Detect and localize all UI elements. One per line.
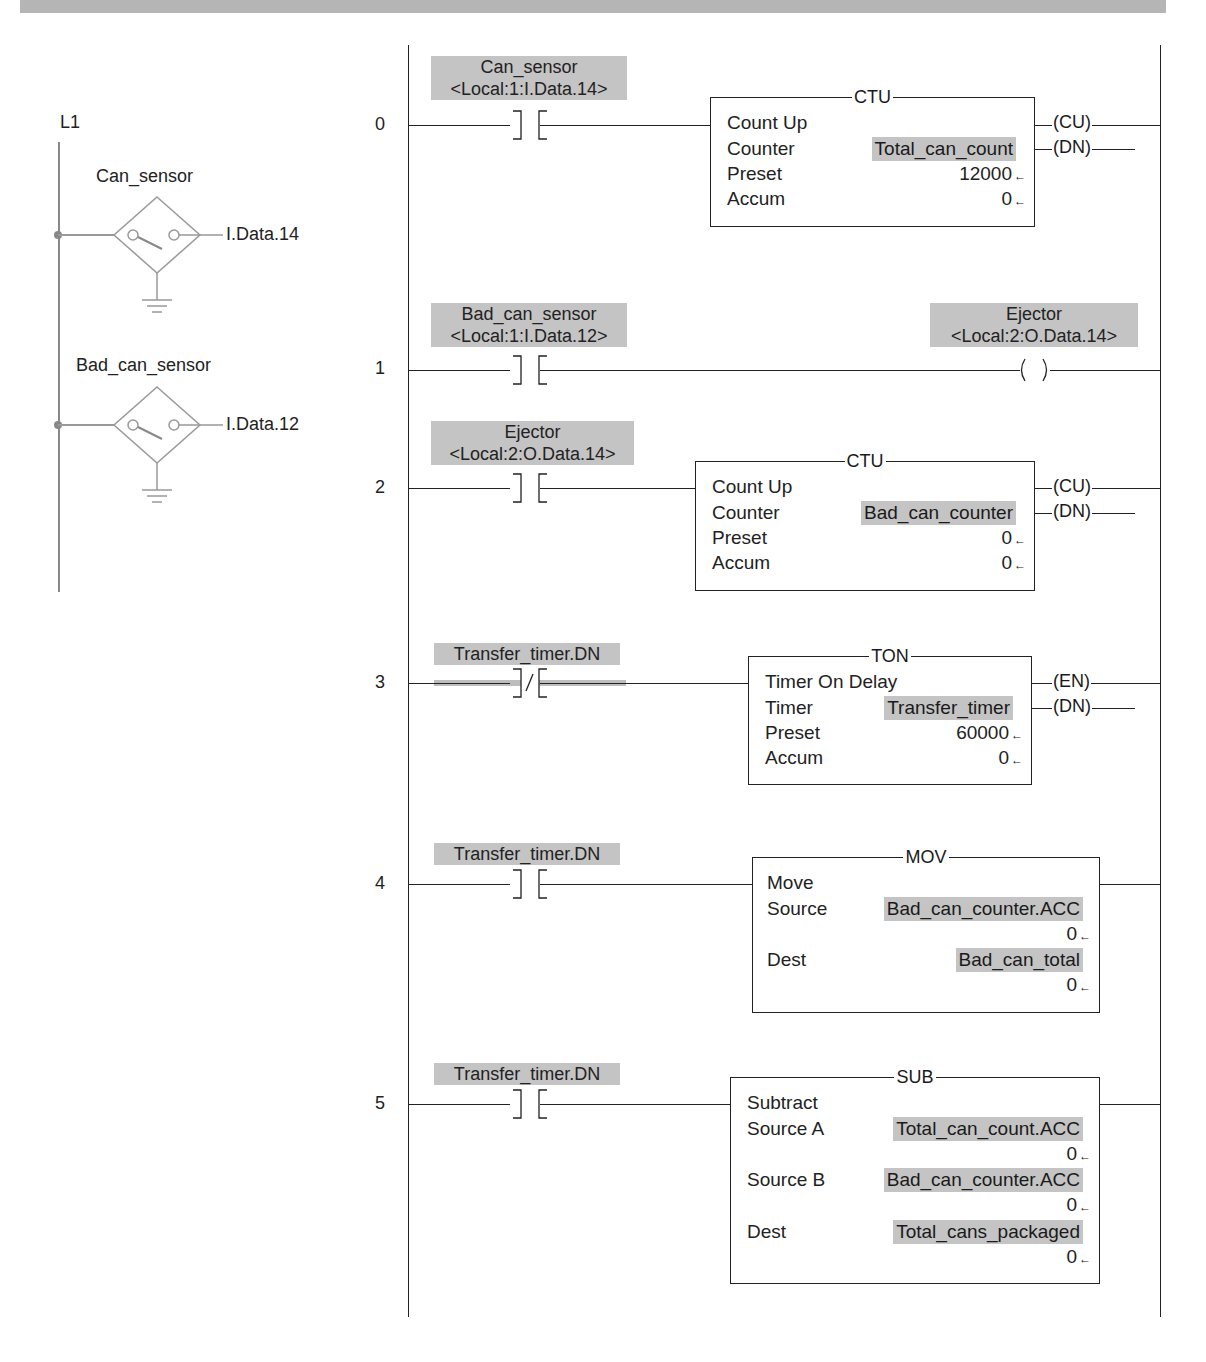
tag-alias: <Local:1:I.Data.12> xyxy=(433,325,625,347)
tag-name: Can_sensor xyxy=(433,56,625,78)
dest-tag[interactable]: Total_cans_packaged xyxy=(893,1220,1083,1244)
param-label: Source A xyxy=(747,1118,824,1140)
proximity-sensor-icon xyxy=(50,190,230,320)
tag-alias: <Local:1:I.Data.14> xyxy=(433,78,625,100)
tag-alias: <Local:2:O.Data.14> xyxy=(932,325,1136,347)
param-label: Preset xyxy=(712,527,767,549)
instruction-mnemonic: MOV xyxy=(903,847,948,867)
right-power-rail xyxy=(1160,45,1161,1317)
source-b-value: 0 xyxy=(1066,1194,1077,1215)
accum-value[interactable]: 0 xyxy=(1001,552,1012,573)
rung-number: 4 xyxy=(370,873,390,894)
dn-status-bit: (DN) xyxy=(1052,137,1092,158)
contact-tag[interactable]: Bad_can_sensor <Local:1:I.Data.12> xyxy=(431,303,627,347)
tag-name: Bad_can_sensor xyxy=(433,303,625,325)
mov-instruction-block[interactable]: MOV Move Source Bad_can_counter.ACC 0← D… xyxy=(752,857,1100,1013)
instruction-mnemonic: CTU xyxy=(852,87,893,107)
dest-value: 0 xyxy=(1066,974,1077,995)
param-label: Source xyxy=(767,898,827,920)
ctu-instruction-block[interactable]: CTU Count Up Counter Bad_can_counter Pre… xyxy=(695,461,1035,591)
arrow-left-icon: ← xyxy=(1011,728,1023,742)
preset-value[interactable]: 60000 xyxy=(956,722,1009,743)
param-label: Timer xyxy=(765,697,813,719)
tag-name: Ejector xyxy=(433,421,632,443)
contact-tag[interactable]: Transfer_timer.DN xyxy=(434,843,620,865)
instruction-mnemonic: SUB xyxy=(894,1067,935,1087)
instruction-mnemonic: CTU xyxy=(845,451,886,471)
ctu-instruction-block[interactable]: CTU Count Up Counter Total_can_count Pre… xyxy=(710,97,1035,227)
rail-label: L1 xyxy=(60,112,80,133)
timer-tag[interactable]: Transfer_timer xyxy=(884,696,1013,720)
param-label: Preset xyxy=(765,722,820,744)
arrow-left-icon: ← xyxy=(1079,1200,1091,1214)
instruction-mnemonic: TON xyxy=(869,646,911,666)
rung-number: 0 xyxy=(370,114,390,135)
rung-number: 1 xyxy=(370,358,390,379)
source-a-tag[interactable]: Total_can_count.ACC xyxy=(893,1117,1083,1141)
source-a-value: 0 xyxy=(1066,1143,1077,1164)
cu-status-bit: (CU) xyxy=(1052,112,1092,133)
arrow-left-icon: ← xyxy=(1014,558,1026,572)
left-power-rail xyxy=(408,45,409,1317)
arrow-left-icon: ← xyxy=(1079,1149,1091,1163)
counter-tag[interactable]: Bad_can_counter xyxy=(861,501,1016,525)
coil-tag[interactable]: Ejector <Local:2:O.Data.14> xyxy=(930,303,1138,347)
accum-value[interactable]: 0 xyxy=(1001,188,1012,209)
source-tag[interactable]: Bad_can_counter.ACC xyxy=(884,897,1083,921)
arrow-left-icon: ← xyxy=(1014,194,1026,208)
sensor-address: I.Data.14 xyxy=(226,224,299,245)
param-label: Preset xyxy=(727,163,782,185)
param-label: Accum xyxy=(765,747,823,769)
arrow-left-icon: ← xyxy=(1079,980,1091,994)
param-label: Dest xyxy=(747,1221,786,1243)
source-value: 0 xyxy=(1066,923,1077,944)
param-label: Counter xyxy=(712,502,780,524)
sub-instruction-block[interactable]: SUB Subtract Source A Total_can_count.AC… xyxy=(730,1077,1100,1284)
accum-value[interactable]: 0 xyxy=(998,747,1009,768)
dn-status-bit: (DN) xyxy=(1052,696,1092,717)
contact-tag[interactable]: Ejector <Local:2:O.Data.14> xyxy=(431,421,634,465)
dest-value: 0 xyxy=(1066,1246,1077,1267)
ton-instruction-block[interactable]: TON Timer On Delay Timer Transfer_timer … xyxy=(748,656,1032,785)
arrow-left-icon: ← xyxy=(1014,533,1026,547)
param-label: Source B xyxy=(747,1169,825,1191)
param-label: Accum xyxy=(727,188,785,210)
en-status-bit: (EN) xyxy=(1052,671,1091,692)
sensor-name: Can_sensor xyxy=(96,166,193,187)
arrow-left-icon: ← xyxy=(1014,169,1026,183)
preset-value[interactable]: 0 xyxy=(1001,527,1012,548)
arrow-left-icon: ← xyxy=(1079,929,1091,943)
arrow-left-icon: ← xyxy=(1079,1252,1091,1266)
contact-tag[interactable]: Transfer_timer.DN xyxy=(434,1063,620,1085)
instruction-description: Count Up xyxy=(727,112,807,134)
contact-tag[interactable]: Can_sensor <Local:1:I.Data.14> xyxy=(431,56,627,100)
instruction-description: Timer On Delay xyxy=(765,671,897,693)
rung-number: 3 xyxy=(370,672,390,693)
preset-value[interactable]: 12000 xyxy=(959,163,1012,184)
dn-status-bit: (DN) xyxy=(1052,501,1092,522)
instruction-description: Count Up xyxy=(712,476,792,498)
instruction-description: Subtract xyxy=(747,1092,818,1114)
arrow-left-icon: ← xyxy=(1011,753,1023,767)
tag-alias: <Local:2:O.Data.14> xyxy=(433,443,632,465)
param-label: Dest xyxy=(767,949,806,971)
rung-number: 2 xyxy=(370,477,390,498)
source-b-tag[interactable]: Bad_can_counter.ACC xyxy=(884,1168,1083,1192)
header-bar xyxy=(20,0,1166,13)
rung-number: 5 xyxy=(370,1093,390,1114)
counter-tag[interactable]: Total_can_count xyxy=(872,137,1016,161)
sensor-name: Bad_can_sensor xyxy=(76,355,211,376)
tag-name: Ejector xyxy=(932,303,1136,325)
dest-tag[interactable]: Bad_can_total xyxy=(956,948,1084,972)
instruction-description: Move xyxy=(767,872,813,894)
param-label: Counter xyxy=(727,138,795,160)
proximity-sensor-icon xyxy=(50,380,230,510)
cu-status-bit: (CU) xyxy=(1052,476,1092,497)
sensor-address: I.Data.12 xyxy=(226,414,299,435)
output-coil-icon[interactable] xyxy=(1015,358,1055,382)
param-label: Accum xyxy=(712,552,770,574)
contact-tag[interactable]: Transfer_timer.DN xyxy=(434,643,620,665)
